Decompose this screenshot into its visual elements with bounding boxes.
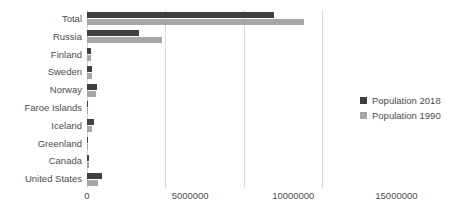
bar-group [87,135,448,153]
x-tick-label: 10000000 [272,190,314,201]
bar-group [87,28,448,46]
category-label: Russia [0,28,82,46]
x-tick-label: 0 [84,190,89,201]
legend-swatch-icon [360,97,367,104]
bar-population-2018 [87,119,94,125]
category-label: Faroe Islands [0,99,82,117]
bar-group [87,10,448,28]
bar-population-1990 [87,162,89,168]
bar-population-1990 [87,144,88,150]
category-label: Total [0,10,82,28]
bar-group [87,63,448,81]
legend-label: Population 1990 [372,110,441,121]
category-label: Norway [0,81,82,99]
legend-swatch-icon [360,112,367,119]
bar-group [87,152,448,170]
bar-population-1990 [87,91,96,97]
legend-label: Population 2018 [372,95,441,106]
bar-group [87,170,448,188]
bar-population-2018 [87,137,88,143]
bar-population-2018 [87,12,274,18]
category-label: Iceland [0,117,82,135]
bar-population-1990 [87,108,88,114]
x-tick-label: 5000000 [172,190,209,201]
category-label: United States [0,170,82,188]
bar-population-1990 [87,73,92,79]
bar-population-2018 [87,30,139,36]
category-label: Canada [0,152,82,170]
bar-population-1990 [87,180,98,186]
category-label: Greenland [0,135,82,153]
bar-population-1990 [87,126,92,132]
category-label: Finland [0,46,82,64]
value-axis: 050000001000000015000000 [0,190,452,206]
bar-population-2018 [87,101,88,107]
legend-item[interactable]: Population 2018 [360,93,441,108]
chart-legend: Population 2018Population 1990 [360,93,441,123]
bar-population-1990 [87,19,304,25]
bar-group [87,46,448,64]
category-axis: TotalRussiaFinlandSwedenNorwayFaroe Isla… [0,10,82,188]
bar-population-1990 [87,37,162,43]
bar-population-2018 [87,48,91,54]
legend-item[interactable]: Population 1990 [360,108,441,123]
bar-population-2018 [87,173,102,179]
bar-population-2018 [87,84,97,90]
bar-population-2018 [87,66,92,72]
category-label: Sweden [0,63,82,81]
bar-chart: TotalRussiaFinlandSwedenNorwayFaroe Isla… [0,0,452,216]
bar-population-2018 [87,155,89,161]
bar-population-1990 [87,55,91,61]
x-tick-label: 15000000 [375,190,417,201]
